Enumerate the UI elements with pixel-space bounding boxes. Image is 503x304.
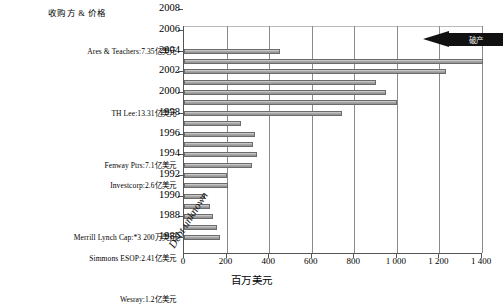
acquirer-label: Simmons ESOP:2.41亿美元 bbox=[0, 252, 176, 263]
x-tick-label-1400: 1 400 bbox=[471, 256, 491, 266]
year-label-1996: 1996 bbox=[0, 127, 180, 138]
x-tick-label-400: 400 bbox=[261, 256, 275, 266]
bar bbox=[184, 235, 220, 240]
bar bbox=[184, 142, 253, 147]
acquirer-label: Ares & Teachers:7.35亿美元 bbox=[0, 45, 176, 56]
bar bbox=[184, 173, 227, 178]
bankruptcy-label: 破产 bbox=[469, 34, 484, 45]
bar bbox=[184, 111, 342, 116]
year-label-2006: 2006 bbox=[0, 23, 180, 34]
acquirer-label: TH Lee:13.31亿美元 bbox=[0, 107, 176, 118]
x-tick-label-600: 600 bbox=[304, 256, 318, 266]
x-tick-label-1000: 1 000 bbox=[386, 256, 406, 266]
bar bbox=[184, 132, 255, 137]
plot-area bbox=[183, 26, 482, 254]
acquirer-label: Merrill Lynch Cap:*3 200万美元 bbox=[0, 231, 176, 242]
acquirer-label: Wesray:1.2亿美元 bbox=[0, 293, 176, 304]
bar bbox=[184, 100, 397, 105]
x-tick-label-1200: 1 200 bbox=[428, 256, 448, 266]
year-label-2002: 2002 bbox=[0, 64, 180, 75]
bar bbox=[184, 183, 228, 188]
year-label-2008: 2008 bbox=[0, 2, 180, 13]
x-tick-label-200: 200 bbox=[219, 256, 233, 266]
bar bbox=[184, 49, 280, 54]
acquirer-label: Investcorp:2.6亿美元 bbox=[0, 179, 176, 190]
bar bbox=[184, 121, 241, 126]
x-axis-title: 百万美元 bbox=[0, 272, 503, 287]
bar bbox=[184, 69, 446, 74]
bar bbox=[184, 80, 376, 85]
x-tick-label-0: 0 bbox=[181, 256, 186, 266]
bankruptcy-arrow: 破产 bbox=[423, 31, 503, 48]
acquirer-label: Fenway Ptrs:7.1亿美元 bbox=[0, 159, 176, 170]
bar bbox=[184, 90, 386, 95]
year-label-1988: 1988 bbox=[0, 209, 180, 220]
bar bbox=[184, 152, 257, 157]
year-label-1994: 1994 bbox=[0, 147, 180, 158]
x-tick-label-800: 800 bbox=[347, 256, 361, 266]
year-label-2000: 2000 bbox=[0, 85, 180, 96]
bar bbox=[184, 163, 252, 168]
bar bbox=[184, 59, 483, 64]
arrow-head-icon bbox=[423, 31, 449, 47]
